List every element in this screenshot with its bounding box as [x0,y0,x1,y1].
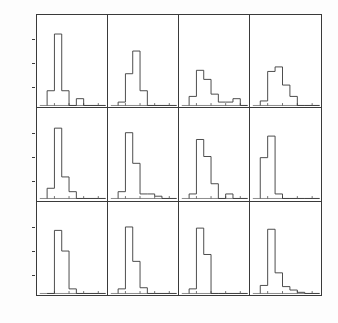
histogram-figure [0,0,338,323]
plot-area-l [250,202,321,295]
y-tick-mark-40-row3 [32,251,35,252]
plot-area-g [179,108,249,200]
histogram-panel-a [37,15,108,108]
histogram-panel-e [37,108,108,201]
plot-area-e [37,108,107,200]
histogram-panel-d [250,15,321,108]
plot-area-b [108,15,178,107]
y-tick-mark-40-row2 [32,157,35,158]
histogram-panel-k [179,202,250,295]
histogram-panel-b [108,15,179,108]
histogram-panel-g [179,108,250,201]
plot-area-f [108,108,178,200]
y-tick-mark-20-row2 [32,181,35,182]
y-tick-mark-60-row3 [32,227,35,228]
plot-area-k [179,202,249,295]
y-tick-mark-60-row1 [32,39,35,40]
plot-area-d [250,15,321,107]
panel-grid [36,14,322,296]
histogram-panel-l [250,202,321,295]
histogram-panel-f [108,108,179,201]
y-tick-mark-20-row1 [32,87,35,88]
histogram-panel-i [37,202,108,295]
y-tick-mark-20-row3 [32,275,35,276]
plot-area-a [37,15,107,107]
plot-area-c [179,15,249,107]
plot-area-i [37,202,107,295]
plot-area-j [108,202,178,295]
histogram-panel-c [179,15,250,108]
y-tick-mark-40-row1 [32,63,35,64]
plot-area-h [250,108,321,200]
histogram-panel-j [108,202,179,295]
y-tick-mark-60-row2 [32,133,35,134]
histogram-panel-h [250,108,321,201]
